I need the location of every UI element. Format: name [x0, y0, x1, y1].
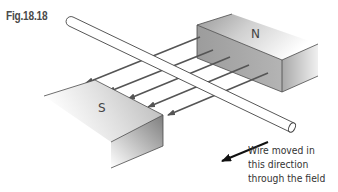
south-pole-label: S [98, 101, 106, 115]
caption-line-1: Wire moved in [248, 143, 325, 157]
motion-caption: Wire moved in this direction through the… [248, 143, 325, 185]
north-magnet: N [197, 14, 318, 92]
south-magnet: S [44, 80, 163, 168]
north-pole-label: N [251, 27, 260, 41]
caption-line-3: through the field [248, 171, 325, 185]
caption-line-2: this direction [248, 157, 325, 171]
